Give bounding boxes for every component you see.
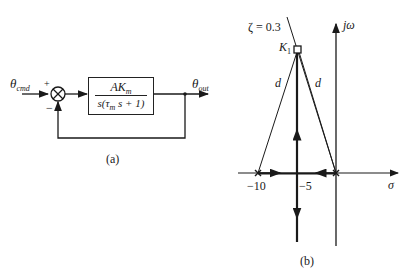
real-axis-label: σ [388, 178, 394, 193]
output-label: θout [192, 76, 209, 93]
tf-numerator: AKm [89, 80, 153, 96]
minus-sign: − [46, 101, 53, 116]
zeta-label: ζ = 0.3 [248, 20, 281, 35]
gain-label: K1 [279, 40, 291, 56]
distance-line-right [299, 52, 336, 173]
imag-axis-label: jω [343, 18, 355, 33]
input-label: θcmd [10, 76, 30, 93]
caption-b: (b) [300, 254, 314, 269]
d-label-right: d [315, 76, 321, 91]
k1-marker [294, 46, 301, 53]
tf-denominator: s(τm s + 1) [89, 97, 153, 112]
diagram-canvas [0, 0, 411, 275]
plus-sign: + [44, 78, 50, 89]
root-locus [238, 17, 398, 246]
caption-a: (a) [106, 152, 119, 167]
transfer-function-block: AKm s(τm s + 1) [88, 77, 154, 115]
fraction-bar [95, 95, 147, 96]
tick-minus5: −5 [299, 179, 312, 194]
distance-line-left [258, 52, 297, 173]
d-label-left: d [275, 76, 281, 91]
tick-minus10: −10 [247, 179, 266, 194]
